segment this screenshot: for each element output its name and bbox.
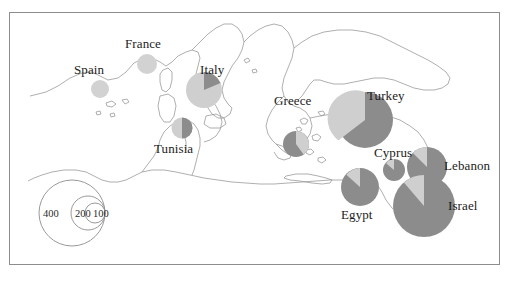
mediterranean-pie-map: Spain France Italy Tunisia Greece Turkey… <box>0 0 510 286</box>
pie-israel[interactable] <box>393 175 455 237</box>
pie-spain[interactable] <box>91 80 109 98</box>
country-label-israel: Israel <box>448 198 477 214</box>
pie-tunisia[interactable] <box>172 118 193 139</box>
pie-cyprus[interactable] <box>383 159 405 181</box>
legend-label-100: 100 <box>93 208 109 219</box>
country-label-lebanon: Lebanon <box>444 158 490 174</box>
pie-egypt[interactable] <box>341 168 379 206</box>
country-label-italy: Italy <box>200 62 224 78</box>
country-label-greece: Greece <box>274 93 311 109</box>
country-label-france: France <box>125 36 161 52</box>
map-canvas <box>0 0 510 286</box>
legend-label-400: 400 <box>43 208 59 219</box>
country-label-turkey: Turkey <box>367 88 405 104</box>
country-label-tunisia: Tunisia <box>154 141 193 157</box>
country-label-egypt: Egypt <box>341 207 373 223</box>
legend-label-200: 200 <box>75 208 91 219</box>
country-label-cyprus: Cyprus <box>374 145 412 161</box>
pie-greece[interactable] <box>283 131 309 157</box>
country-label-spain: Spain <box>74 62 104 78</box>
pie-france[interactable] <box>137 54 157 74</box>
